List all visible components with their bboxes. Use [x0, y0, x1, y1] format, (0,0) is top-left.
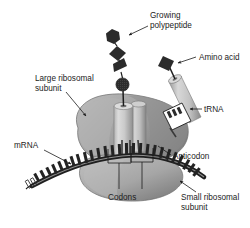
- polypeptide-stem: [123, 90, 124, 106]
- label-small-subunit-line2: subunit: [181, 203, 208, 212]
- leader-amino-acid: [178, 57, 196, 63]
- label-mrna: mRNA: [14, 141, 39, 150]
- label-trna: tRNA: [204, 105, 224, 114]
- label-codons: Codons: [108, 193, 136, 202]
- label-large-subunit-line1: Large ribosomal: [35, 74, 94, 83]
- textured-circle-residue: [116, 78, 129, 91]
- residue-link-3: [121, 72, 123, 78]
- label-small-subunit-line1: Small ribosomal: [181, 193, 239, 202]
- label-large-subunit-line2: subunit: [35, 84, 62, 93]
- label-growing-polypeptide-line2: polypeptide: [150, 21, 192, 30]
- translation-diagram-svg: Growing polypeptide Amino acid Large rib…: [0, 0, 250, 228]
- amino-acid-shape: [158, 56, 174, 71]
- label-growing-polypeptide-line1: Growing: [150, 11, 181, 20]
- hexagon-residue: [106, 29, 120, 44]
- label-amino-acid: Amino acid: [199, 53, 240, 62]
- ribosome-translation-figure: Growing polypeptide Amino acid Large rib…: [0, 0, 250, 228]
- leader-small-subunit: [180, 181, 196, 192]
- leader-large-subunit: [66, 92, 86, 116]
- leader-growing-polypeptide: [129, 26, 148, 35]
- triangle-residue: [113, 58, 127, 72]
- label-anticodon: Anticodon: [173, 152, 210, 161]
- mrna-free-end: [25, 178, 37, 189]
